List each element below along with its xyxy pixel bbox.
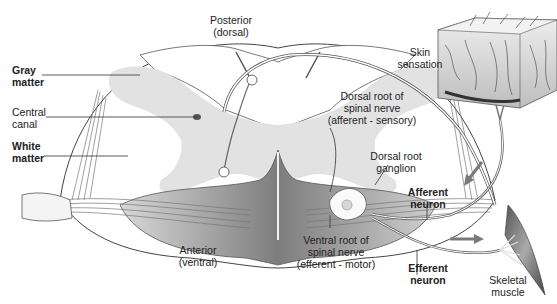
label-gray-matter: Gray matter (12, 64, 44, 88)
label-ventral-root-line3: (efferent - motor) (286, 258, 386, 270)
label-afferent-line2: neuron (400, 198, 456, 210)
skin-block (438, 12, 557, 108)
spinal-cord-diagram (0, 0, 557, 304)
label-efferent-line1: Efferent (400, 262, 456, 274)
label-muscle-line2: muscle (480, 286, 536, 298)
label-anterior-line1: Anterior (166, 244, 230, 256)
label-skin-line2: sensation (390, 58, 450, 70)
label-efferent-line2: neuron (400, 274, 456, 286)
label-drg-line1: Dorsal root (360, 150, 432, 162)
label-gray-matter-line1: Gray (12, 64, 44, 76)
label-skin-sensation: Skin sensation (390, 46, 450, 70)
label-anterior: Anterior (ventral) (166, 244, 230, 268)
label-gray-matter-line2: matter (12, 76, 44, 88)
label-skeletal-muscle: Skeletal muscle (480, 274, 536, 298)
label-anterior-line2: (ventral) (166, 256, 230, 268)
label-ventral-root-line1: Ventral root of (286, 234, 386, 246)
label-afferent-line1: Afferent (400, 186, 456, 198)
label-efferent-neuron: Efferent neuron (400, 262, 456, 286)
label-central-canal-line1: Central (12, 106, 46, 118)
label-ventral-root: Ventral root of spinal nerve (efferent -… (286, 234, 386, 270)
label-drg-line2: ganglion (360, 162, 432, 174)
label-dorsal-root-line3: (afferent - sensory) (322, 114, 422, 126)
label-posterior: Posterior (dorsal) (196, 14, 266, 38)
label-dorsal-root-line1: Dorsal root of (322, 90, 422, 102)
label-white-matter-line1: White (12, 140, 44, 152)
label-afferent-neuron: Afferent neuron (400, 186, 456, 210)
label-ventral-root-line2: spinal nerve (286, 246, 386, 258)
label-central-canal: Central canal (12, 106, 46, 130)
label-dorsal-root: Dorsal root of spinal nerve (afferent - … (322, 90, 422, 126)
label-central-canal-line2: canal (12, 118, 46, 130)
label-dorsal-root-ganglion: Dorsal root ganglion (360, 150, 432, 174)
label-skin-line1: Skin (390, 46, 450, 58)
label-white-matter: White matter (12, 140, 44, 164)
label-dorsal-root-line2: spinal nerve (322, 102, 422, 114)
label-posterior-line2: (dorsal) (196, 26, 266, 38)
label-white-matter-line2: matter (12, 152, 44, 164)
label-posterior-line1: Posterior (196, 14, 266, 26)
label-muscle-line1: Skeletal (480, 274, 536, 286)
